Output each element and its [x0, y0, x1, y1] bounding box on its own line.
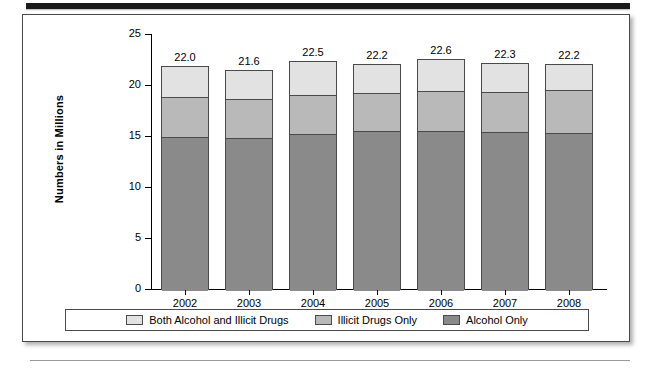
legend-item[interactable]: Both Alcohol and Illicit Drugs: [126, 314, 288, 326]
x-axis-tick: [377, 290, 378, 295]
legend-swatch: [126, 315, 143, 325]
bar-segment-alcohol-only: [546, 134, 592, 291]
x-axis-category-label: 2008: [557, 297, 581, 309]
bar-segment-both-alcohol-and-illicit-drugs: [290, 62, 336, 97]
y-axis-tick: 25: [145, 34, 152, 35]
plot-area: Numbers in Millions 2520151050 22.020022…: [23, 15, 631, 343]
y-axis-tick: 5: [145, 238, 152, 239]
stacked-bar[interactable]: [417, 59, 465, 290]
legend-label: Alcohol Only: [466, 314, 528, 326]
y-axis-tick-label: 5: [135, 231, 145, 243]
stacked-bar[interactable]: [161, 66, 209, 290]
y-axis-tick: 10: [145, 187, 152, 188]
x-axis-tick: [313, 290, 314, 295]
y-axis-tick: 0: [145, 289, 152, 290]
bar-total-label: 22.2: [366, 49, 387, 61]
bottom-hairline-rule: [30, 360, 630, 361]
bar-segment-both-alcohol-and-illicit-drugs: [482, 64, 528, 94]
y-axis-tick-label: 10: [129, 180, 145, 192]
legend-swatch: [443, 315, 460, 325]
x-axis-category-label: 2006: [429, 297, 453, 309]
figure-frame: Numbers in Millions 2520151050 22.020022…: [22, 14, 630, 342]
bar-total-label: 22.5: [302, 46, 323, 58]
stacked-bar[interactable]: [545, 64, 593, 290]
legend-item[interactable]: Alcohol Only: [443, 314, 528, 326]
legend-label: Both Alcohol and Illicit Drugs: [149, 314, 288, 326]
bar-segment-alcohol-only: [482, 133, 528, 291]
bar-segment-illicit-drugs-only: [482, 93, 528, 133]
x-axis-category-label: 2007: [493, 297, 517, 309]
bar-segment-alcohol-only: [354, 132, 400, 291]
x-axis-category-label: 2003: [237, 297, 261, 309]
y-axis-line: [151, 34, 152, 290]
bar-segment-illicit-drugs-only: [162, 98, 208, 138]
legend-swatch: [315, 315, 332, 325]
legend-label: Illicit Drugs Only: [338, 314, 417, 326]
stacked-bar[interactable]: [481, 63, 529, 290]
bar-segment-both-alcohol-and-illicit-drugs: [226, 71, 272, 101]
bar-total-label: 22.3: [494, 48, 515, 60]
bar-segment-both-alcohol-and-illicit-drugs: [546, 65, 592, 92]
x-axis-tick: [185, 290, 186, 295]
bar-segment-alcohol-only: [418, 132, 464, 291]
y-axis-tick-label: 0: [135, 282, 145, 294]
x-axis-category-label: 2004: [301, 297, 325, 309]
bar-segment-both-alcohol-and-illicit-drugs: [162, 67, 208, 99]
legend-item[interactable]: Illicit Drugs Only: [315, 314, 417, 326]
x-axis-tick: [441, 290, 442, 295]
x-axis-tick: [249, 290, 250, 295]
bar-segment-both-alcohol-and-illicit-drugs: [418, 60, 464, 92]
bar-segment-alcohol-only: [162, 138, 208, 291]
bar-segment-illicit-drugs-only: [418, 92, 464, 132]
stacked-bar[interactable]: [289, 61, 337, 291]
y-axis-tick-label: 15: [129, 129, 145, 141]
bar-segment-illicit-drugs-only: [354, 94, 400, 132]
x-axis-category-label: 2005: [365, 297, 389, 309]
bar-segment-illicit-drugs-only: [546, 91, 592, 134]
bar-total-label: 22.2: [558, 49, 579, 61]
y-axis-tick: 20: [145, 85, 152, 86]
chart-legend: Both Alcohol and Illicit DrugsIllicit Dr…: [65, 309, 589, 331]
bar-segment-illicit-drugs-only: [226, 100, 272, 139]
bar-segment-both-alcohol-and-illicit-drugs: [354, 65, 400, 95]
x-axis-category-label: 2002: [173, 297, 197, 309]
bar-total-label: 21.6: [238, 55, 259, 67]
x-axis-tick: [569, 290, 570, 295]
stacked-bar[interactable]: [225, 70, 273, 290]
bar-segment-alcohol-only: [290, 135, 336, 291]
y-axis-tick-label: 25: [129, 27, 145, 39]
x-axis-tick: [505, 290, 506, 295]
y-axis-tick: 15: [145, 136, 152, 137]
bar-segment-alcohol-only: [226, 139, 272, 291]
stacked-bar[interactable]: [353, 64, 401, 290]
bar-total-label: 22.6: [430, 44, 451, 56]
top-rule-shadow: [26, 9, 630, 11]
bar-total-label: 22.0: [174, 51, 195, 63]
bar-segment-illicit-drugs-only: [290, 96, 336, 135]
y-axis-title: Numbers in Millions: [53, 69, 65, 229]
y-axis-tick-label: 20: [129, 78, 145, 90]
